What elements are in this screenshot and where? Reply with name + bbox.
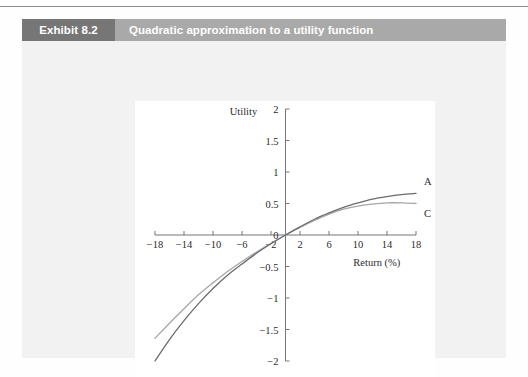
y-axis-tick-label: 0.5 xyxy=(265,199,278,210)
x-axis-title: Return (%) xyxy=(353,257,400,269)
exhibit-body: −18−14−10−6−22610141821.510.50−0.5−1−1.5… xyxy=(22,41,506,358)
utility-function-chart: −18−14−10−6−22610141821.510.50−0.5−1−1.5… xyxy=(135,101,435,377)
x-axis-tick-label: −14 xyxy=(176,239,193,250)
x-axis-tick-label: 10 xyxy=(353,239,364,250)
x-axis-tick-label: −6 xyxy=(236,239,247,250)
chart-plot-panel: −18−14−10−6−22610141821.510.50−0.5−1−1.5… xyxy=(135,101,435,377)
x-axis-tick-label: 6 xyxy=(326,239,331,250)
y-axis-title: Utility xyxy=(230,106,258,117)
exhibit-title: Quadratic approximation to a utility fun… xyxy=(115,19,506,41)
series-label-c: C xyxy=(424,208,431,219)
x-axis-tick-label: −18 xyxy=(147,239,163,250)
exhibit-number-badge: Exhibit 8.2 xyxy=(22,19,115,41)
y-axis-tick-label: −2 xyxy=(267,356,278,367)
exhibit-header: Exhibit 8.2 Quadratic approximation to a… xyxy=(22,19,506,41)
y-axis-tick-label: −1.5 xyxy=(259,325,278,336)
x-axis-tick-label: −10 xyxy=(205,239,221,250)
y-axis-tick-label: 1 xyxy=(273,167,278,178)
x-axis-tick-label: 14 xyxy=(382,239,393,250)
top-divider xyxy=(0,6,528,7)
y-axis-tick-label: −0.5 xyxy=(259,262,278,273)
y-axis-tick-label: 1.5 xyxy=(265,136,278,147)
exhibit-page: Exhibit 8.2 Quadratic approximation to a… xyxy=(0,0,528,377)
x-axis-tick-label: 2 xyxy=(297,239,302,250)
series-label-a: A xyxy=(424,176,432,187)
x-axis-tick-label: 18 xyxy=(411,239,422,250)
y-axis-tick-label: 2 xyxy=(273,104,278,115)
y-axis-tick-label: −1 xyxy=(267,293,278,304)
